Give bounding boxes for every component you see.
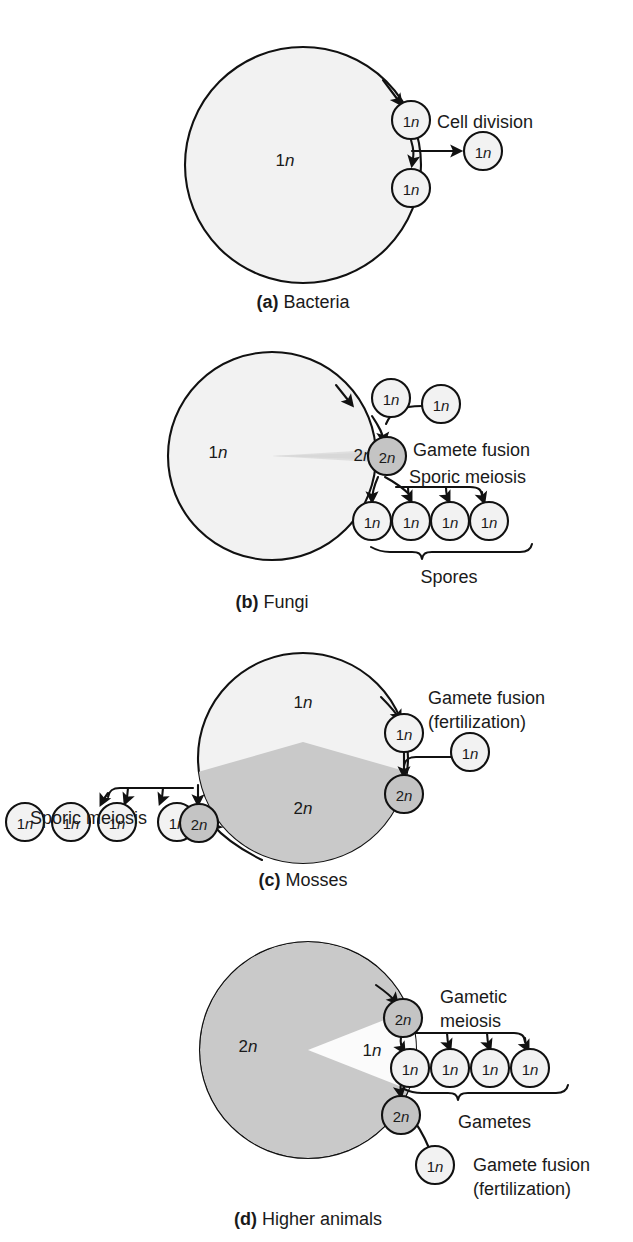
panel-c-meiosis-rail	[108, 788, 193, 797]
panel-d-caption: (d) Higher animals	[234, 1209, 382, 1229]
node-b-gamete-right: 1n	[422, 385, 460, 423]
node-c-gamete-partner: 1n	[451, 733, 489, 771]
node-d-germ-cell-label: 2n	[395, 1011, 412, 1028]
node-c-gamete-label: 1n	[396, 726, 413, 743]
node-b-spore-3-label: 1n	[442, 514, 459, 531]
panel-c-mosses: 1n 2n 1n 1n 1n	[6, 653, 545, 890]
node-b-spore-2-label: 1n	[403, 514, 420, 531]
life-cycle-figure: 1n 1n 1n 1n Cell division	[0, 0, 633, 1242]
panel-d-gametes-label: Gametes	[458, 1112, 531, 1132]
node-d-zygote: 2n	[382, 1096, 420, 1134]
panel-c-region-label-1n: 1n	[294, 693, 313, 712]
node-d-gamete-1: 1n	[391, 1049, 429, 1087]
cell-division-label: Cell division	[437, 112, 533, 132]
node-c-sporophyte-label: 2n	[191, 816, 208, 833]
panel-c-region-label-2n: 2n	[294, 799, 313, 818]
panel-b-sporic-meiosis-label: Sporic meiosis	[409, 467, 526, 487]
node-a-top: 1n	[392, 101, 430, 139]
node-a-bottom: 1n	[392, 169, 430, 207]
node-b-spore-3: 1n	[431, 502, 469, 540]
node-d-gamete-3-label: 1n	[482, 1061, 499, 1078]
node-d-gamete-1-label: 1n	[402, 1061, 419, 1078]
node-d-gamete-partner-label: 1n	[427, 1158, 444, 1175]
panel-d-higher-animals: 2n 1n 2n 1n 1n	[200, 942, 590, 1229]
panel-c-spore3-arrow	[160, 788, 163, 803]
node-d-gamete-4-label: 1n	[522, 1061, 539, 1078]
panel-b-spores-label: Spores	[420, 567, 477, 587]
panel-c-fertilization-label: (fertilization)	[428, 712, 526, 732]
node-b-spore-1: 1n	[353, 502, 391, 540]
panel-b-fungi: 1n 2n 1n 1n 2n	[168, 352, 532, 612]
panel-d-gametic-label: Gametic	[440, 987, 507, 1007]
panel-a-region-label-1n: 1n	[276, 151, 295, 170]
node-a-daughter-label: 1n	[475, 144, 492, 161]
node-c-gamete: 1n	[385, 714, 423, 752]
node-c-zygote: 2n	[385, 775, 423, 813]
node-a-top-label: 1n	[403, 113, 420, 130]
node-b-gamete-right-label: 1n	[433, 397, 450, 414]
life-cycle-diagram-canvas: 1n 1n 1n 1n Cell division	[0, 0, 633, 1242]
node-d-gamete-3: 1n	[471, 1049, 509, 1087]
panel-c-spore2-arrow	[125, 788, 128, 803]
node-b-spore-1-label: 1n	[364, 514, 381, 531]
panel-c-gamete-fusion-label: Gamete fusion	[428, 688, 545, 708]
panel-b-gamete-fusion-label: Gamete fusion	[413, 440, 530, 460]
panel-c-spore1-arrow	[101, 793, 108, 804]
panel-c-sporic-meiosis-label: Sporic meiosis	[30, 808, 147, 828]
panel-d-meiosis-rail	[411, 1033, 525, 1042]
node-d-gamete-partner: 1n	[416, 1146, 454, 1184]
panel-b-caption: (b) Fungi	[235, 592, 308, 612]
panel-d-gamete3-arrow	[487, 1033, 490, 1049]
panel-b-spores-brace	[371, 544, 532, 559]
node-d-gamete-2-label: 1n	[442, 1061, 459, 1078]
node-c-zygote-label: 2n	[396, 787, 413, 804]
panel-b-region-label-1n: 1n	[209, 443, 228, 462]
node-b-spore-2: 1n	[392, 502, 430, 540]
node-d-gamete-2: 1n	[431, 1049, 469, 1087]
node-d-germ-cell: 2n	[384, 999, 422, 1037]
node-d-zygote-label: 2n	[393, 1108, 410, 1125]
panel-d-gamete-fusion-label: Gamete fusion	[473, 1155, 590, 1175]
panel-c-caption: (c) Mosses	[258, 870, 347, 890]
node-b-gamete-left: 1n	[372, 379, 410, 417]
panel-a-caption: (a) Bacteria	[256, 292, 350, 312]
panel-a-bacteria: 1n 1n 1n 1n Cell division	[185, 47, 533, 312]
panel-d-region-label-2n: 2n	[239, 1037, 258, 1056]
panel-b-spore3-arrow	[446, 487, 449, 501]
node-b-gamete-left-label: 1n	[383, 391, 400, 408]
panel-d-fertilization-label: (fertilization)	[473, 1179, 571, 1199]
panel-d-gamete2-arrow	[447, 1033, 450, 1049]
panel-d-region-label-1n: 1n	[363, 1041, 382, 1060]
node-b-spore-4: 1n	[470, 502, 508, 540]
node-d-gamete-4: 1n	[511, 1049, 549, 1087]
node-c-sporophyte: 2n	[180, 804, 218, 842]
node-b-spore-4-label: 1n	[481, 514, 498, 531]
panel-d-meiosis-label: meiosis	[440, 1011, 501, 1031]
node-a-daughter: 1n	[464, 132, 502, 170]
node-b-zygote: 2n	[368, 437, 406, 475]
node-b-zygote-label: 2n	[379, 449, 396, 466]
node-a-bottom-label: 1n	[403, 181, 420, 198]
node-c-gamete-partner-label: 1n	[462, 745, 479, 762]
panel-b-spore4-arrow	[482, 492, 484, 502]
panel-b-spore2-arrow	[408, 487, 411, 501]
